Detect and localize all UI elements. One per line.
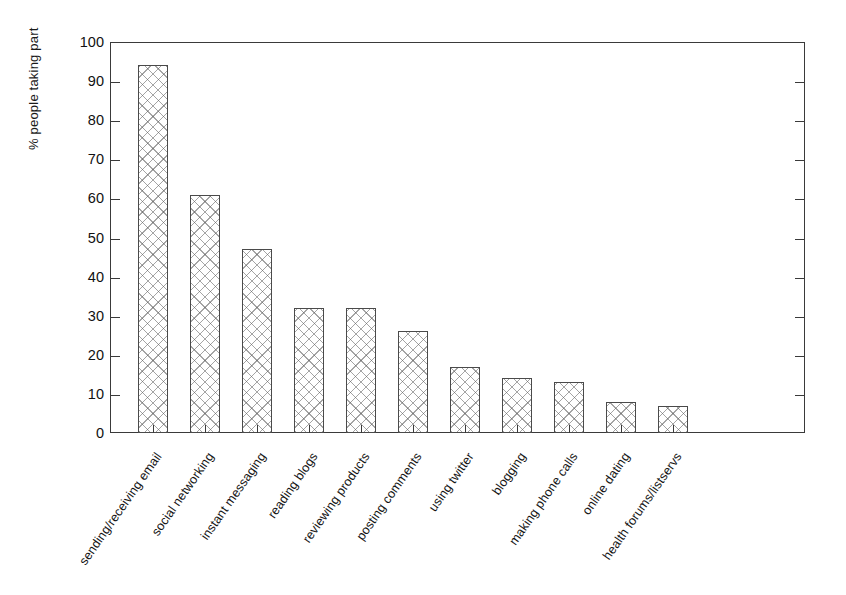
- x-tick-mark: [465, 425, 466, 433]
- x-tick-mark: [153, 425, 154, 433]
- bar: [346, 308, 376, 433]
- y-axis-title: % people taking part: [26, 0, 46, 150]
- x-tick-label: using twitter: [426, 450, 477, 514]
- x-tick-mark: [205, 425, 206, 433]
- y-tick-label: 30: [68, 308, 104, 324]
- bar: [294, 308, 324, 433]
- y-tick-label: 80: [68, 112, 104, 128]
- y-tick-label: 90: [68, 73, 104, 89]
- x-tick-mark: [517, 425, 518, 433]
- y-tick-label: 100: [68, 34, 104, 50]
- x-tick-mark: [569, 425, 570, 433]
- bar: [450, 367, 480, 433]
- x-tick-label: reading blogs: [265, 450, 321, 521]
- bars-layer: [110, 42, 805, 433]
- x-tick-mark: [413, 425, 414, 433]
- x-tick-mark: [309, 425, 310, 433]
- bar-chart: % people taking part 0102030405060708090…: [0, 0, 846, 595]
- x-tick-mark: [673, 425, 674, 433]
- bar: [398, 331, 428, 433]
- bar: [242, 249, 272, 433]
- y-tick-label: 50: [68, 230, 104, 246]
- y-tick-label: 40: [68, 269, 104, 285]
- x-tick-mark: [621, 425, 622, 433]
- bar: [138, 65, 168, 433]
- x-tick-label: blogging: [489, 450, 528, 498]
- y-tick-label: 60: [68, 190, 104, 206]
- y-axis-tick-labels: 0102030405060708090100: [58, 0, 104, 595]
- y-tick-label: 70: [68, 151, 104, 167]
- x-tick-mark: [361, 425, 362, 433]
- x-tick-label: online dating: [580, 450, 633, 518]
- y-tick-label: 20: [68, 347, 104, 363]
- y-tick-label: 0: [68, 425, 104, 441]
- bar: [190, 195, 220, 434]
- y-tick-label: 10: [68, 386, 104, 402]
- x-tick-mark: [257, 425, 258, 433]
